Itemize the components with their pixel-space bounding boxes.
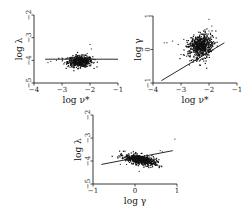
outlier-point: [209, 19, 210, 20]
outlier-point: [91, 49, 92, 50]
outlier-point: [178, 44, 179, 45]
outlier-point: [122, 157, 123, 158]
x-tick-label: −2: [85, 86, 95, 94]
outlier-point: [78, 68, 79, 69]
y-axis-label: log λ: [14, 37, 24, 60]
y-tick-label: −3: [84, 133, 92, 143]
outlier-point: [160, 150, 161, 151]
outlier-point: [183, 39, 184, 40]
outlier-point: [87, 53, 88, 54]
x-tick-label: −3: [176, 86, 186, 94]
outlier-point: [174, 139, 175, 140]
outlier-point: [162, 151, 163, 152]
outlier-point: [192, 59, 193, 60]
x-tick-label: 1: [175, 187, 179, 195]
y-tick-label: −5: [25, 78, 33, 88]
axis-lines: [34, 15, 118, 83]
outlier-point: [167, 42, 168, 43]
scatter-chart-figure: −4−3−2−1−5−4−3−2log ν*log λ−4−3−2−1−101l…: [0, 0, 252, 218]
y-tick-label: −4: [84, 155, 92, 166]
scatter-panel-p1: −4−3−2−1−5−4−3−2log ν*log λ: [14, 10, 124, 105]
x-tick-label: −2: [204, 86, 214, 94]
outlier-point: [73, 67, 74, 68]
outlier-point: [211, 26, 212, 27]
y-axis-label: log λ: [73, 138, 83, 161]
outlier-point: [48, 62, 49, 63]
data-points: [112, 139, 176, 172]
fit-line: [161, 43, 224, 81]
y-tick-label: −3: [25, 33, 33, 43]
y-tick-label: −5: [84, 179, 92, 189]
outlier-point: [62, 58, 63, 59]
y-tick-label: −2: [84, 110, 92, 120]
outlier-point: [50, 61, 51, 62]
scatter-panel-p3: −101−5−4−3−2log γlog λ: [73, 110, 180, 206]
outlier-point: [120, 164, 121, 165]
y-axis-label: log γ: [133, 38, 143, 60]
outlier-point: [139, 171, 140, 172]
x-tick-label: −3: [57, 86, 67, 94]
x-axis-label: log ν*: [63, 95, 90, 105]
outlier-point: [181, 54, 182, 55]
outlier-point: [76, 54, 77, 55]
x-tick-label: −1: [113, 86, 123, 94]
outlier-point: [164, 42, 165, 43]
axis-lines: [93, 115, 177, 184]
outlier-point: [90, 44, 91, 45]
outlier-point: [172, 41, 173, 42]
outlier-point: [186, 56, 187, 57]
y-tick-label: −1: [144, 78, 152, 88]
outlier-point: [56, 60, 57, 61]
x-axis-label: log γ: [124, 196, 146, 206]
scatter-panel-p2: −4−3−2−1−101log ν*log γ: [133, 14, 243, 105]
outlier-point: [209, 31, 210, 32]
x-tick-label: 0: [133, 187, 137, 195]
outlier-point: [195, 57, 196, 58]
x-tick-label: −1: [232, 86, 242, 94]
y-tick-label: −4: [25, 55, 33, 66]
data-points: [48, 44, 98, 71]
y-tick-label: −2: [25, 10, 33, 20]
outlier-point: [64, 62, 65, 63]
y-tick-label: 0: [144, 47, 152, 51]
x-axis-label: log ν*: [182, 95, 209, 105]
data-points: [164, 19, 218, 69]
y-tick-label: 1: [144, 14, 152, 18]
outlier-point: [126, 164, 127, 165]
